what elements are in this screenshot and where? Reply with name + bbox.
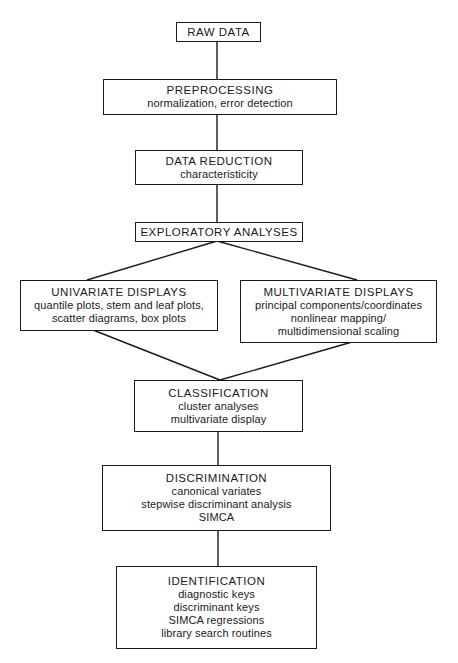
node-detail: SIMCA regressions xyxy=(169,614,265,627)
node-title: UNIVARIATE DISPLAYS xyxy=(51,286,186,299)
node-data-reduction: DATA REDUCTION characteristicity xyxy=(135,150,303,185)
edge-exploratory-to-multivariate xyxy=(217,241,357,280)
node-detail: diagnostic keys xyxy=(178,588,255,601)
node-detail: cluster analyses xyxy=(178,400,258,413)
node-title: MULTIVARIATE DISPLAYS xyxy=(263,286,413,299)
node-title: IDENTIFICATION xyxy=(168,575,266,588)
node-univariate-displays: UNIVARIATE DISPLAYS quantile plots, stem… xyxy=(20,280,218,331)
node-detail: discriminant keys xyxy=(173,601,259,614)
node-classification: CLASSIFICATION cluster analyses multivar… xyxy=(134,380,303,432)
node-detail: nonlinear mapping/ xyxy=(291,312,386,325)
node-discrimination: DISCRIMINATION canonical variates stepwi… xyxy=(102,465,331,531)
node-detail: principal components/coordinates xyxy=(255,299,422,312)
node-detail: characteristicity xyxy=(180,168,258,181)
node-exploratory-analyses: EXPLORATORY ANALYSES xyxy=(135,222,303,242)
node-detail: canonical variates xyxy=(172,485,262,498)
node-title: RAW DATA xyxy=(187,26,250,39)
edge-multivariate-to-classification xyxy=(220,342,352,380)
node-title: CLASSIFICATION xyxy=(168,387,269,400)
node-detail: SIMCA xyxy=(199,511,234,524)
edge-univariate-to-classification xyxy=(93,330,220,380)
node-title: DISCRIMINATION xyxy=(166,472,267,485)
node-detail: scatter diagrams, box plots xyxy=(52,312,186,325)
node-detail: multivariate display xyxy=(171,413,267,426)
node-title: PREPROCESSING xyxy=(167,84,274,97)
node-multivariate-displays: MULTIVARIATE DISPLAYS principal componen… xyxy=(240,280,437,343)
node-detail: stepwise discriminant analysis xyxy=(141,498,291,511)
node-preprocessing: PREPROCESSING normalization, error detec… xyxy=(103,79,337,115)
flowchart-diagram: RAW DATA PREPROCESSING normalization, er… xyxy=(0,0,458,663)
node-raw-data: RAW DATA xyxy=(176,22,261,42)
edge-exploratory-to-univariate xyxy=(87,241,217,280)
node-title: DATA REDUCTION xyxy=(166,155,273,168)
node-detail: quantile plots, stem and leaf plots, xyxy=(34,299,204,312)
node-detail: multidimensional scaling xyxy=(278,325,400,338)
node-identification: IDENTIFICATION diagnostic keys discrimin… xyxy=(116,566,317,649)
node-detail: library search routines xyxy=(161,627,272,640)
node-title: EXPLORATORY ANALYSES xyxy=(140,226,297,239)
node-detail: normalization, error detection xyxy=(147,97,292,110)
figure-caption-cropped xyxy=(70,658,390,663)
